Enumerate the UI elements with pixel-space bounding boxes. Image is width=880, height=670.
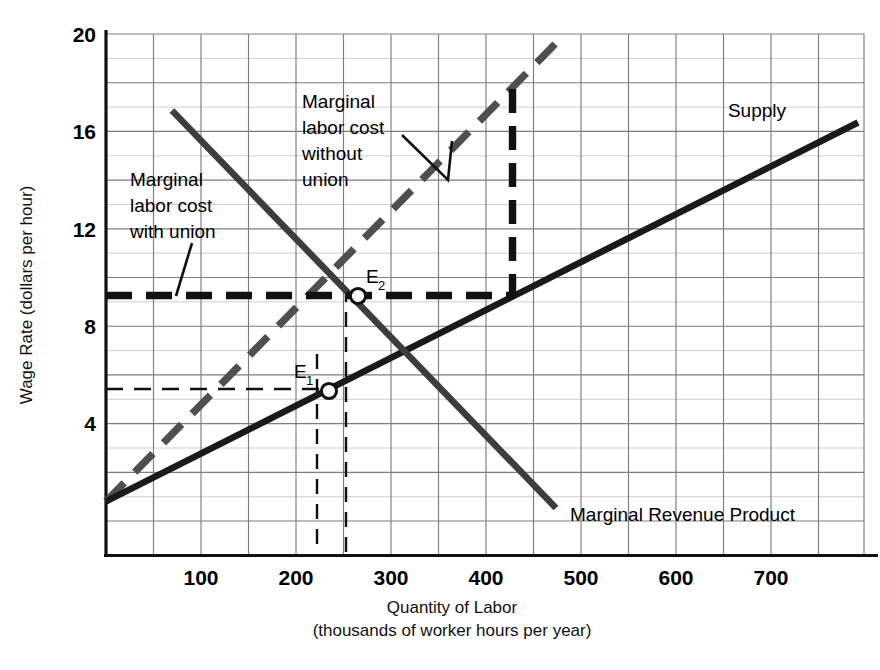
y-tick-label-16: 16 — [73, 120, 96, 143]
x-tick-label-600: 600 — [658, 566, 693, 589]
series-label-marginal-revenue-product: Marginal Revenue Product — [570, 504, 796, 525]
y-tick-label-12: 12 — [73, 218, 96, 241]
series-label-supply: Supply — [728, 100, 787, 121]
y-axis-title: Wage Rate (dollars per hour) — [17, 186, 36, 405]
annotation-mlc-without-union-line2: labor cost — [302, 117, 385, 138]
annotation-mlc-with-union-line3: with union — [129, 221, 216, 242]
y-tick-label-20: 20 — [73, 23, 96, 46]
point-label-e2-main: E — [366, 266, 379, 287]
x-tick-label-500: 500 — [563, 566, 598, 589]
annotation-mlc-without-union-line4: union — [302, 169, 349, 190]
x-tick-label-300: 300 — [373, 566, 408, 589]
point-label-e1-sub: 1 — [306, 373, 313, 388]
chart-figure: 20 16 12 8 4 100 200 300 400 500 600 700… — [0, 0, 880, 670]
annotation-mlc-with-union: Marginal labor cost with union — [129, 169, 216, 242]
economics-labor-market-chart: 20 16 12 8 4 100 200 300 400 500 600 700… — [0, 0, 880, 670]
annotation-mlc-without-union-line1: Marginal — [302, 91, 375, 112]
x-tick-label-100: 100 — [183, 566, 218, 589]
annotation-mlc-with-union-line1: Marginal — [130, 169, 203, 190]
x-tick-label-700: 700 — [753, 566, 788, 589]
point-label-e1-main: E — [294, 361, 307, 382]
y-tick-label-8: 8 — [84, 315, 96, 338]
x-tick-label-200: 200 — [278, 566, 313, 589]
y-tick-label-4: 4 — [84, 412, 96, 435]
point-marker-e1 — [321, 383, 336, 398]
annotation-mlc-with-union-line2: labor cost — [130, 195, 213, 216]
x-axis-subtitle: (thousands of worker hours per year) — [313, 621, 592, 640]
annotation-mlc-without-union-line3: without — [301, 143, 363, 164]
point-marker-e2 — [350, 288, 365, 303]
x-axis-title: Quantity of Labor — [387, 598, 518, 617]
point-label-e2-sub: 2 — [378, 278, 385, 293]
x-tick-label-400: 400 — [468, 566, 503, 589]
